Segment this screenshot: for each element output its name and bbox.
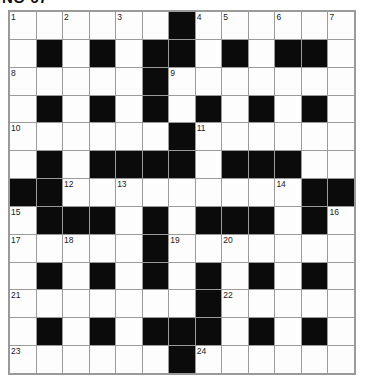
crossword-cell[interactable]: [249, 179, 275, 206]
crossword-cell[interactable]: 22: [222, 290, 248, 317]
crossword-cell[interactable]: [222, 68, 248, 95]
crossword-cell[interactable]: [90, 12, 116, 39]
crossword-cell[interactable]: [90, 235, 116, 262]
crossword-cell[interactable]: [63, 290, 89, 317]
crossword-cell[interactable]: 11: [196, 123, 222, 150]
crossword-cell[interactable]: [63, 68, 89, 95]
crossword-cell[interactable]: 21: [10, 290, 36, 317]
crossword-cell[interactable]: [116, 318, 142, 345]
crossword-grid[interactable]: 123456789101112131415161718192021222324: [8, 10, 356, 375]
crossword-cell[interactable]: 23: [10, 346, 36, 373]
crossword-cell[interactable]: [275, 235, 301, 262]
crossword-cell[interactable]: [116, 235, 142, 262]
crossword-cell[interactable]: [196, 179, 222, 206]
crossword-cell[interactable]: [63, 263, 89, 290]
crossword-cell[interactable]: [90, 346, 116, 373]
crossword-cell[interactable]: [302, 235, 328, 262]
crossword-cell[interactable]: [328, 96, 354, 123]
crossword-cell[interactable]: [328, 40, 354, 67]
crossword-cell[interactable]: 13: [116, 179, 142, 206]
crossword-cell[interactable]: 5: [222, 12, 248, 39]
crossword-cell[interactable]: [116, 123, 142, 150]
crossword-cell[interactable]: 8: [10, 68, 36, 95]
crossword-cell[interactable]: 1: [10, 12, 36, 39]
crossword-cell[interactable]: [328, 318, 354, 345]
crossword-cell[interactable]: [196, 235, 222, 262]
crossword-cell[interactable]: 17: [10, 235, 36, 262]
crossword-cell[interactable]: [116, 290, 142, 317]
crossword-cell[interactable]: [63, 40, 89, 67]
crossword-cell[interactable]: [37, 346, 63, 373]
crossword-cell[interactable]: [249, 12, 275, 39]
crossword-cell[interactable]: [222, 346, 248, 373]
crossword-cell[interactable]: [143, 346, 169, 373]
crossword-cell[interactable]: [249, 235, 275, 262]
crossword-cell[interactable]: [116, 207, 142, 234]
crossword-cell[interactable]: 10: [10, 123, 36, 150]
crossword-cell[interactable]: [275, 123, 301, 150]
crossword-cell[interactable]: [143, 12, 169, 39]
crossword-cell[interactable]: [143, 123, 169, 150]
crossword-cell[interactable]: [116, 263, 142, 290]
crossword-cell[interactable]: [143, 179, 169, 206]
crossword-cell[interactable]: [169, 207, 195, 234]
crossword-cell[interactable]: [275, 96, 301, 123]
crossword-cell[interactable]: [302, 123, 328, 150]
crossword-cell[interactable]: [90, 123, 116, 150]
crossword-cell[interactable]: [222, 179, 248, 206]
crossword-cell[interactable]: [10, 318, 36, 345]
crossword-cell[interactable]: [328, 68, 354, 95]
crossword-cell[interactable]: 12: [63, 179, 89, 206]
crossword-cell[interactable]: [90, 68, 116, 95]
crossword-cell[interactable]: [63, 123, 89, 150]
crossword-cell[interactable]: 20: [222, 235, 248, 262]
crossword-cell[interactable]: [143, 290, 169, 317]
crossword-cell[interactable]: 24: [196, 346, 222, 373]
crossword-cell[interactable]: [90, 179, 116, 206]
crossword-cell[interactable]: [196, 40, 222, 67]
crossword-cell[interactable]: 6: [275, 12, 301, 39]
crossword-cell[interactable]: [275, 346, 301, 373]
crossword-cell[interactable]: [275, 68, 301, 95]
crossword-cell[interactable]: [116, 40, 142, 67]
crossword-cell[interactable]: [328, 290, 354, 317]
crossword-cell[interactable]: [169, 290, 195, 317]
crossword-cell[interactable]: [116, 96, 142, 123]
crossword-cell[interactable]: [328, 235, 354, 262]
crossword-cell[interactable]: [302, 346, 328, 373]
crossword-cell[interactable]: 15: [10, 207, 36, 234]
crossword-cell[interactable]: [328, 263, 354, 290]
crossword-cell[interactable]: [116, 68, 142, 95]
crossword-cell[interactable]: 2: [63, 12, 89, 39]
crossword-cell[interactable]: [222, 263, 248, 290]
crossword-cell[interactable]: [37, 68, 63, 95]
crossword-cell[interactable]: [10, 263, 36, 290]
crossword-cell[interactable]: [328, 123, 354, 150]
crossword-cell[interactable]: [302, 290, 328, 317]
crossword-cell[interactable]: [328, 346, 354, 373]
crossword-cell[interactable]: 7: [328, 12, 354, 39]
crossword-cell[interactable]: 14: [275, 179, 301, 206]
crossword-cell[interactable]: 4: [196, 12, 222, 39]
crossword-cell[interactable]: [222, 318, 248, 345]
crossword-cell[interactable]: [10, 40, 36, 67]
crossword-cell[interactable]: [10, 151, 36, 178]
crossword-cell[interactable]: [249, 290, 275, 317]
crossword-cell[interactable]: [275, 263, 301, 290]
crossword-cell[interactable]: [63, 151, 89, 178]
crossword-cell[interactable]: [196, 151, 222, 178]
crossword-cell[interactable]: [63, 318, 89, 345]
crossword-cell[interactable]: [37, 290, 63, 317]
crossword-cell[interactable]: [302, 68, 328, 95]
crossword-cell[interactable]: [302, 151, 328, 178]
crossword-cell[interactable]: [275, 318, 301, 345]
crossword-cell[interactable]: [63, 96, 89, 123]
crossword-cell[interactable]: [169, 179, 195, 206]
crossword-cell[interactable]: [37, 12, 63, 39]
crossword-cell[interactable]: [222, 96, 248, 123]
crossword-cell[interactable]: [302, 12, 328, 39]
crossword-cell[interactable]: [249, 123, 275, 150]
crossword-cell[interactable]: [222, 123, 248, 150]
crossword-cell[interactable]: 3: [116, 12, 142, 39]
crossword-cell[interactable]: [63, 346, 89, 373]
